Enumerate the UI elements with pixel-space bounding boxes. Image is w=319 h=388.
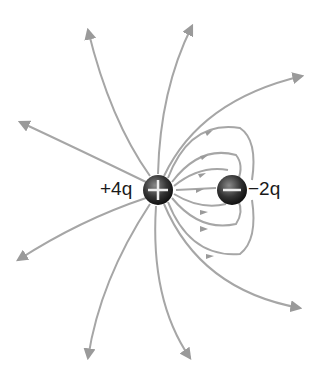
negative-charge-label: −2q xyxy=(248,178,280,200)
positive-charge-label: +4q xyxy=(100,178,132,200)
arrowheads xyxy=(196,130,214,259)
